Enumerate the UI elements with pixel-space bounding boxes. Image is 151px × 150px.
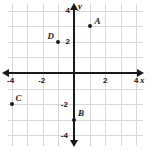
gridline-horizontal	[8, 11, 143, 12]
y-tick-label: 4	[65, 6, 69, 15]
y-axis-arrow-up	[70, 3, 78, 10]
gridline-horizontal	[8, 104, 143, 105]
x-tick-label: 2	[103, 76, 107, 85]
grid-area	[8, 4, 143, 146]
gridline-horizontal	[8, 42, 143, 43]
y-tick-label: -2	[61, 100, 68, 109]
y-axis-arrow-down	[70, 140, 78, 147]
gridline-horizontal	[8, 89, 143, 90]
x-tick-label: 4	[134, 76, 138, 85]
point-label-d: D	[47, 32, 54, 41]
point-label-a: A	[95, 17, 101, 26]
coordinate-plane: xy-4-22442-2-4ABCD	[0, 0, 151, 150]
gridline-horizontal	[8, 57, 143, 58]
gridline-horizontal	[8, 135, 143, 136]
point-label-b: B	[78, 109, 84, 118]
x-tick-label: -2	[38, 76, 45, 85]
y-axis-label: y	[78, 2, 82, 11]
y-tick-label: -4	[61, 131, 68, 140]
point-label-c: C	[16, 94, 22, 103]
gridline-horizontal	[8, 26, 143, 27]
x-axis-label: x	[140, 76, 145, 85]
plotted-point-b	[72, 118, 76, 122]
plotted-point-c	[10, 102, 14, 106]
plotted-point-a	[88, 24, 92, 28]
y-tick-label: 2	[65, 37, 69, 46]
x-tick-label: -4	[7, 76, 14, 85]
